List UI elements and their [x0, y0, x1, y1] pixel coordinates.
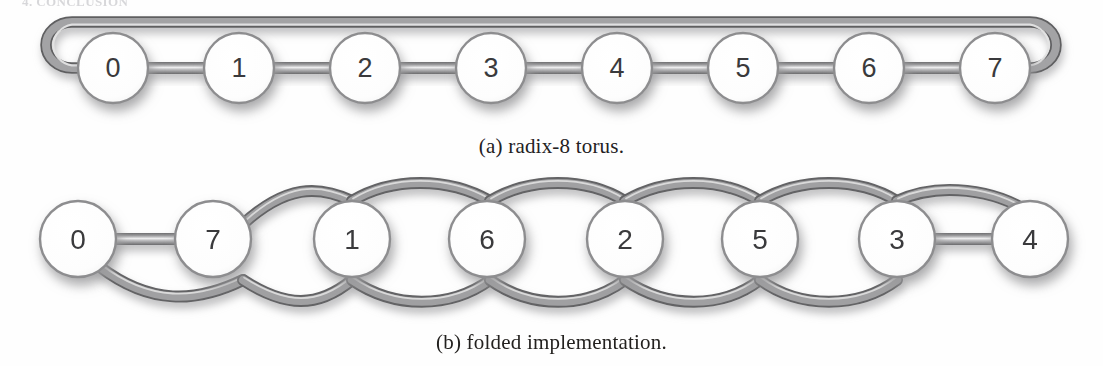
node-a-7[interactable]: 7 [960, 33, 1030, 103]
node-a-3[interactable]: 3 [456, 33, 526, 103]
node-a-2-label: 2 [357, 53, 372, 83]
node-a-6-label: 6 [861, 53, 876, 83]
node-a-1[interactable]: 1 [204, 33, 274, 103]
link-b-1-2-lower [352, 278, 490, 302]
node-a-7-label: 7 [987, 53, 1002, 83]
link-b-6-5-lower [490, 278, 625, 302]
node-a-2[interactable]: 2 [330, 33, 400, 103]
link-b-2-5 [625, 181, 760, 201]
node-b-3[interactable]: 3 [859, 201, 935, 277]
node-b-2-label: 2 [617, 224, 633, 255]
node-b-5[interactable]: 5 [722, 201, 798, 277]
node-b-6-label: 6 [479, 224, 495, 255]
link-b-6-2 [490, 181, 625, 201]
node-b-7[interactable]: 7 [175, 201, 251, 277]
node-a-4-label: 4 [609, 53, 624, 83]
node-b-7-label: 7 [205, 224, 221, 255]
link-b-2-3-lower [625, 278, 760, 302]
node-a-6[interactable]: 6 [834, 33, 904, 103]
node-b-5-label: 5 [752, 224, 768, 255]
node-b-1-label: 1 [344, 224, 360, 255]
node-b-6[interactable]: 6 [449, 201, 525, 277]
node-b-0[interactable]: 0 [40, 201, 116, 277]
node-b-3-label: 3 [889, 224, 905, 255]
caption-panel-b: (b) folded implementation. [0, 330, 1103, 355]
folded-nodes-group: 0 7 1 6 2 [40, 201, 1068, 277]
link-b-1-6 [352, 181, 490, 201]
node-a-4[interactable]: 4 [582, 33, 652, 103]
node-b-0-label: 0 [70, 224, 86, 255]
caption-panel-a: (a) radix-8 torus. [0, 134, 1103, 159]
link-b-5-3 [760, 181, 897, 201]
node-b-4-label: 4 [1022, 224, 1038, 255]
node-a-3-label: 3 [483, 53, 498, 83]
node-b-1[interactable]: 1 [314, 201, 390, 277]
link-b-7-6-lower [243, 278, 352, 302]
node-a-5-label: 5 [735, 53, 750, 83]
node-a-0[interactable]: 0 [78, 33, 148, 103]
figure-page: 4. CONCLUSION [0, 0, 1103, 366]
node-a-1-label: 1 [231, 53, 246, 83]
node-a-0-label: 0 [105, 53, 120, 83]
node-b-4[interactable]: 4 [992, 201, 1068, 277]
node-a-5[interactable]: 5 [708, 33, 778, 103]
link-b-5-4-lower [760, 278, 897, 302]
node-b-2[interactable]: 2 [587, 201, 663, 277]
